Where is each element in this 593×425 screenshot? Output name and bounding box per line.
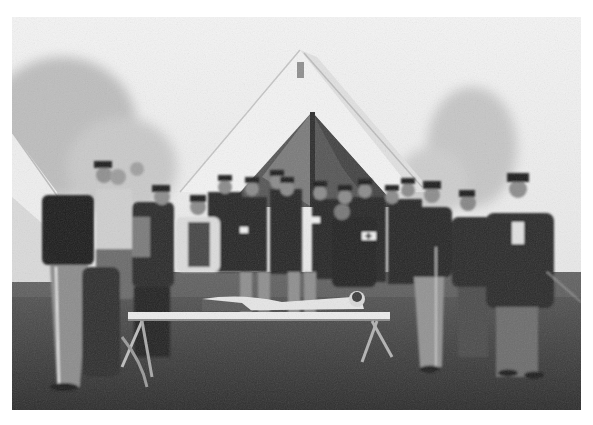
historical-photo: A group of about eighteen uniformed sold… — [12, 17, 581, 410]
photo-canvas — [12, 17, 581, 410]
